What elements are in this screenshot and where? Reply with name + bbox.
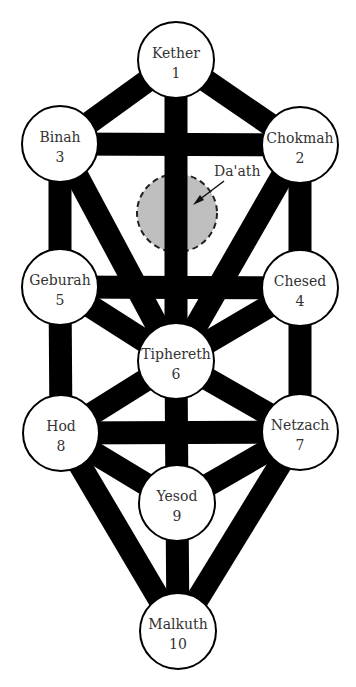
sephirah-number: 3 [56,149,65,165]
daath-label: Da'ath [214,163,260,179]
sephirah-chesed: Chesed4 [262,250,338,326]
sephirah-name: Kether [152,45,200,61]
sephirah-number: 1 [172,65,181,81]
sephirah-name: Chokmah [266,130,333,146]
sephirah-name: Binah [39,129,80,145]
sephirah-name: Netzach [271,417,330,433]
sephirah-name: Geburah [29,272,91,288]
sephirah-name: Malkuth [148,616,207,632]
sephirah-number: 2 [296,150,305,166]
sephirah-number: 10 [169,636,187,652]
sephirah-number: 6 [172,366,181,382]
sephirah-kether: Kether1 [138,22,214,98]
sephirah-binah: Binah3 [22,106,98,182]
sephirah-name: Hod [46,418,76,434]
sephirah-number: 4 [296,293,305,309]
sephirah-name: Tiphereth [141,346,211,362]
sephirah-chokmah: Chokmah2 [262,107,338,183]
sephirah-netzach: Netzach7 [262,394,338,470]
sephirah-malkuth: Malkuth10 [140,593,216,669]
sephirah-number: 9 [173,508,182,524]
sephirah-yesod: Yesod9 [139,465,215,541]
sephirah-number: 7 [296,437,305,453]
sephirah-number: 5 [56,292,65,308]
sephirah-geburah: Geburah5 [22,249,98,325]
sephirah-name: Chesed [274,273,326,289]
sephirah-tiphereth: Tiphereth6 [138,323,214,399]
sephirah-hod: Hod8 [23,395,99,471]
sephirah-number: 8 [57,438,66,454]
sephirah-name: Yesod [156,488,198,504]
tree-of-life-diagram: Da'ath Kether1Chokmah2Binah3Chesed4Gebur… [0,0,356,687]
